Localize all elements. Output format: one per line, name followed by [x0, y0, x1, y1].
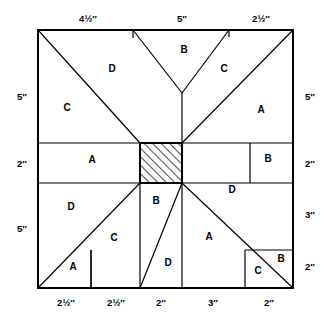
seam-diag-lower-right	[182, 183, 293, 288]
seam-diag-upper-left	[38, 30, 140, 143]
piece-label-p15: C	[254, 265, 261, 276]
dim-left-2: 2″	[17, 158, 27, 169]
piece-label-p16: B	[277, 253, 284, 264]
dim-left-3: 5″	[17, 223, 27, 234]
dim-top-1: 4½″	[79, 13, 97, 24]
quilt-block-diagram: 4½″ 5″ 2½″ 2½″ 2½″ 2″ 3″ 2″ 5″ 2″ 5″ 5″ …	[0, 0, 331, 322]
dim-right-1: 5″	[305, 91, 315, 102]
piece-label-p08: D	[228, 184, 235, 195]
seam-v-left-arm	[133, 30, 182, 93]
piece-label-p11: C	[110, 232, 117, 243]
piece-label-p06: A	[88, 154, 95, 165]
dim-bottom-5: 2″	[264, 297, 274, 308]
dim-bottom-4: 3″	[208, 297, 218, 308]
piece-label-p14: A	[69, 261, 76, 272]
seam-diag-lower-left	[38, 183, 140, 288]
quilt-block-svg: 4½″ 5″ 2½″ 2½″ 2½″ 2″ 3″ 2″ 5″ 2″ 5″ 5″ …	[0, 0, 331, 322]
seam-v-right-arm	[182, 30, 229, 93]
piece-label-p02: B	[180, 44, 187, 55]
dim-bottom-3: 2″	[156, 297, 166, 308]
piece-label-p07: B	[264, 153, 271, 164]
dim-top-3: 2½″	[252, 13, 270, 24]
piece-label-p10: B	[152, 195, 159, 206]
dim-right-3: 3″	[305, 209, 315, 220]
piece-label-p01: D	[108, 63, 115, 74]
seam-diag-bottom-center	[140, 183, 182, 288]
piece-label-p04: C	[63, 102, 70, 113]
dim-right-2: 2″	[305, 158, 315, 169]
piece-label-p05: A	[257, 104, 264, 115]
dim-bottom-1: 2½″	[57, 297, 75, 308]
seam-diag-upper-right	[182, 30, 293, 143]
piece-label-p13: D	[164, 257, 171, 268]
piece-label-p12: A	[205, 231, 212, 242]
center-square-hatched	[140, 143, 182, 183]
piece-label-p09: D	[67, 201, 74, 212]
dim-right-4: 2″	[305, 261, 315, 272]
dim-top-2: 5″	[177, 13, 187, 24]
dim-bottom-2: 2½″	[107, 297, 125, 308]
piece-label-p03: C	[220, 63, 227, 74]
dim-left-1: 5″	[17, 91, 27, 102]
